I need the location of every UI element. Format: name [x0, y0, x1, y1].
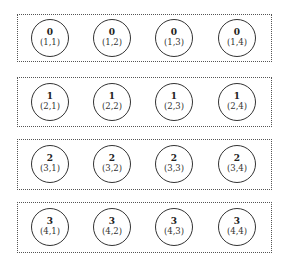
node-coord: (3,4) [219, 163, 255, 173]
node-rank: 3 [94, 216, 130, 226]
node-4-1: 3 (4,1) [31, 208, 69, 246]
node-coord: (3,1) [32, 163, 68, 173]
node-3-3: 2 (3,3) [155, 145, 193, 183]
node-2-3: 1 (2,3) [155, 83, 193, 121]
node-rank: 3 [156, 216, 192, 226]
node-coord: (2,3) [156, 101, 192, 111]
node-coord: (2,2) [94, 101, 130, 111]
node-coord: (3,2) [94, 163, 130, 173]
node-4-3: 3 (4,3) [155, 208, 193, 246]
node-3-2: 2 (3,2) [93, 145, 131, 183]
node-rank: 0 [94, 27, 130, 37]
node-rank: 0 [32, 27, 68, 37]
node-rank: 0 [219, 27, 255, 37]
node-coord: (1,3) [156, 37, 192, 47]
node-coord: (1,1) [32, 37, 68, 47]
node-2-1: 1 (2,1) [31, 83, 69, 121]
node-coord: (4,3) [156, 226, 192, 236]
node-coord: (2,1) [32, 101, 68, 111]
node-4-4: 3 (4,4) [218, 208, 256, 246]
node-coord: (4,4) [219, 226, 255, 236]
node-rank: 2 [219, 153, 255, 163]
node-1-1: 0 (1,1) [31, 19, 69, 57]
node-2-2: 1 (2,2) [93, 83, 131, 121]
node-rank: 1 [32, 91, 68, 101]
node-3-1: 2 (3,1) [31, 145, 69, 183]
node-coord: (4,1) [32, 226, 68, 236]
node-rank: 2 [32, 153, 68, 163]
node-1-3: 0 (1,3) [155, 19, 193, 57]
node-4-2: 3 (4,2) [93, 208, 131, 246]
node-coord: (4,2) [94, 226, 130, 236]
node-3-4: 2 (3,4) [218, 145, 256, 183]
node-1-4: 0 (1,4) [218, 19, 256, 57]
node-rank: 2 [156, 153, 192, 163]
node-rank: 3 [32, 216, 68, 226]
node-2-4: 1 (2,4) [218, 83, 256, 121]
node-rank: 3 [219, 216, 255, 226]
node-1-2: 0 (1,2) [93, 19, 131, 57]
node-coord: (1,4) [219, 37, 255, 47]
node-coord: (2,4) [219, 101, 255, 111]
node-rank: 1 [219, 91, 255, 101]
node-rank: 1 [156, 91, 192, 101]
node-coord: (1,2) [94, 37, 130, 47]
node-rank: 1 [94, 91, 130, 101]
node-rank: 2 [94, 153, 130, 163]
node-coord: (3,3) [156, 163, 192, 173]
node-rank: 0 [156, 27, 192, 37]
